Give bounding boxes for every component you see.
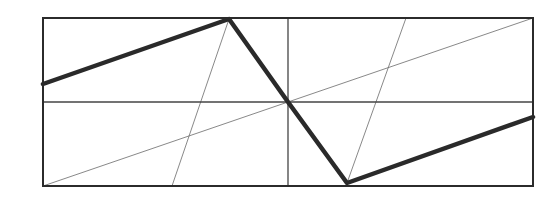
diagram-svg (0, 0, 560, 207)
right-steep-line (347, 18, 406, 183)
diagram-canvas (0, 0, 560, 207)
